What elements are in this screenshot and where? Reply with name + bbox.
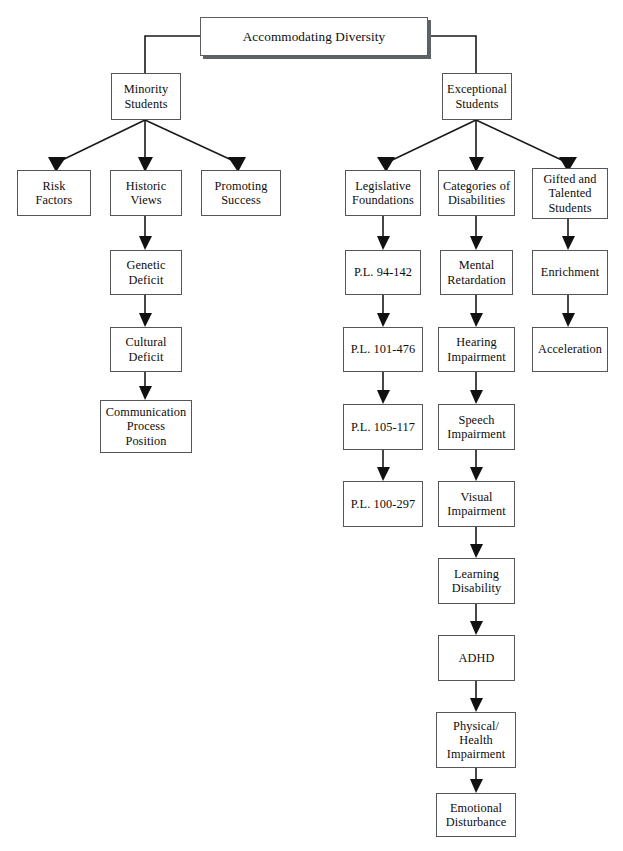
node-physical-health-impairment[interactable]: Physical/ Health Impairment (436, 712, 516, 768)
node-label: P.L. 101-476 (346, 342, 420, 356)
node-label: Accommodating Diversity (203, 29, 425, 44)
node-communication-process-position[interactable]: Communication Process Position (100, 400, 192, 453)
node-label: Legislative Foundations (348, 179, 418, 208)
node-label: Acceleration (535, 342, 605, 356)
node-pl-100-297[interactable]: P.L. 100-297 (343, 481, 423, 527)
node-label: Emotional Disturbance (439, 801, 513, 830)
node-label: Enrichment (535, 265, 605, 279)
node-label: Hearing Impairment (441, 335, 512, 364)
node-acceleration[interactable]: Acceleration (532, 327, 608, 372)
node-label: Exceptional Students (445, 82, 509, 111)
node-historic-views[interactable]: Historic Views (110, 170, 182, 216)
node-label: ADHD (441, 651, 512, 665)
node-label: Communication Process Position (103, 405, 189, 448)
node-label: Visual Impairment (441, 490, 512, 519)
node-legislative-foundations[interactable]: Legislative Foundations (345, 170, 421, 216)
node-adhd[interactable]: ADHD (438, 635, 515, 681)
node-label: P.L. 105-117 (346, 420, 420, 434)
node-label: Physical/ Health Impairment (439, 719, 513, 762)
node-categories-of-disabilities[interactable]: Categories of Disabilities (438, 170, 515, 216)
flowchart-canvas: Accommodating Diversity Minority Student… (0, 0, 623, 851)
node-label: Categories of Disabilities (441, 179, 512, 208)
node-label: Risk Factors (20, 179, 88, 208)
node-label: Historic Views (113, 179, 179, 208)
node-risk-factors[interactable]: Risk Factors (17, 170, 91, 216)
node-speech-impairment[interactable]: Speech Impairment (438, 404, 515, 450)
node-genetic-deficit[interactable]: Genetic Deficit (110, 250, 182, 295)
node-label: Learning Disability (441, 567, 512, 596)
node-pl-105-117[interactable]: P.L. 105-117 (343, 404, 423, 450)
node-enrichment[interactable]: Enrichment (532, 250, 608, 295)
node-minority-students[interactable]: Minority Students (111, 73, 181, 120)
node-exceptional-students[interactable]: Exceptional Students (442, 73, 512, 120)
node-label: Mental Retardation (443, 258, 510, 287)
node-label: Genetic Deficit (113, 258, 179, 287)
node-pl-101-476[interactable]: P.L. 101-476 (343, 327, 423, 372)
node-label: P.L. 94-142 (348, 265, 418, 279)
node-mental-retardation[interactable]: Mental Retardation (440, 250, 513, 295)
node-promoting-success[interactable]: Promoting Success (201, 170, 281, 216)
node-gifted-and-talented-students[interactable]: Gifted and Talented Students (532, 168, 608, 219)
node-label: Cultural Deficit (113, 335, 179, 364)
node-label: Speech Impairment (441, 413, 512, 442)
node-label: Gifted and Talented Students (535, 172, 605, 215)
node-accommodating-diversity[interactable]: Accommodating Diversity (200, 17, 428, 56)
node-visual-impairment[interactable]: Visual Impairment (438, 481, 515, 527)
node-hearing-impairment[interactable]: Hearing Impairment (438, 327, 515, 372)
node-pl-94-142[interactable]: P.L. 94-142 (345, 250, 421, 295)
node-label: Minority Students (114, 82, 178, 111)
node-learning-disability[interactable]: Learning Disability (438, 558, 515, 604)
node-label: P.L. 100-297 (346, 497, 420, 511)
connector-layer (0, 0, 623, 851)
node-emotional-disturbance[interactable]: Emotional Disturbance (436, 793, 516, 837)
node-label: Promoting Success (204, 179, 278, 208)
node-cultural-deficit[interactable]: Cultural Deficit (110, 327, 182, 372)
